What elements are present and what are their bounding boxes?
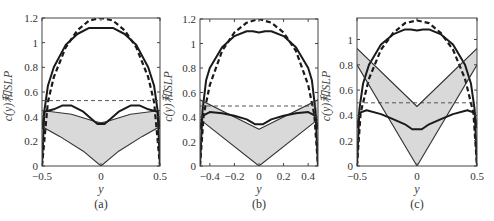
y-tick-label: 1: [191, 38, 197, 50]
x-axis-label: y: [97, 182, 104, 196]
x-tick-label: 0.4: [301, 170, 315, 182]
x-tick-label: 0: [256, 170, 262, 182]
panel-caption: (b): [252, 197, 266, 211]
y-tick-label: 0.2: [24, 135, 38, 147]
y-tick-label: 0.6: [24, 86, 38, 98]
figure-canvas: 00.20.40.60.811.2−0.500.5yc(y)和SLP(a) 00…: [0, 0, 494, 221]
y-tick-label: 0.4: [339, 109, 353, 121]
x-tick-label: 0.5: [470, 170, 484, 182]
y-tick-label: 0.6: [182, 87, 196, 99]
y-tick-label: 0.8: [182, 62, 196, 74]
panel-caption: (a): [94, 197, 107, 211]
panel-a: 00.20.40.60.811.2−0.500.5yc(y)和SLP(a): [1, 12, 167, 211]
y-tick-label: 1.2: [24, 12, 38, 24]
y-axis-label: c(y)和SLP: [319, 70, 333, 121]
x-tick-label: 0.2: [277, 170, 291, 182]
x-tick-label: −0.2: [224, 170, 244, 182]
y-tick-label: 1.2: [182, 13, 196, 25]
x-tick-label: 0: [414, 170, 420, 182]
slp-band: [42, 111, 160, 167]
plot-area: [200, 19, 318, 166]
y-axis-label: c(y)和SLP: [1, 70, 15, 121]
x-axis-label: y: [413, 182, 420, 196]
y-tick-label: 0.4: [24, 111, 38, 123]
y-tick-label: 1: [348, 34, 354, 46]
x-tick-label: −0.4: [200, 170, 220, 182]
x-axis-label: y: [255, 182, 262, 196]
x-tick-label: −0.5: [32, 170, 52, 182]
plot-area: [357, 21, 477, 167]
x-tick-label: 0.5: [153, 170, 167, 182]
y-tick-label: 0: [191, 160, 197, 172]
y-tick-label: 0.8: [24, 61, 38, 73]
y-axis-label: c(y)和SLP: [161, 71, 175, 122]
y-tick-label: 0.4: [182, 111, 196, 123]
x-tick-label: 0: [98, 170, 104, 182]
y-tick-label: 0.2: [339, 135, 353, 147]
panel-b: 00.20.40.60.811.2−0.4−0.200.20.4yc(y)和SL…: [161, 13, 318, 211]
y-tick-label: 0.8: [339, 59, 353, 71]
y-tick-label: 1: [33, 37, 39, 49]
y-tick-label: 0.2: [182, 136, 196, 148]
plot-area: [42, 18, 160, 166]
x-tick-label: −0.5: [347, 170, 367, 182]
panel-c: 00.20.40.60.81−0.500.5yc(y)和SLP(c): [319, 18, 484, 211]
panel-caption: (c): [410, 197, 423, 211]
y-tick-label: 0.6: [339, 84, 353, 96]
